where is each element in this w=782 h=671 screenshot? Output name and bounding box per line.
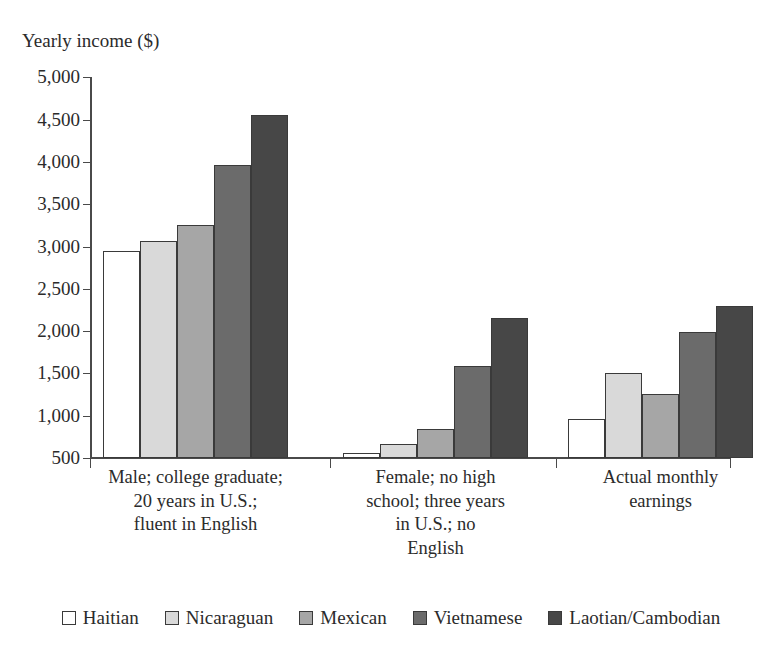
y-tick-label: 1,500 <box>6 363 80 382</box>
y-tick-label: 4,000 <box>6 152 80 171</box>
y-tick-label: 3,000 <box>6 237 80 256</box>
y-axis-line <box>90 77 92 459</box>
legend-item: Haitian <box>62 607 139 629</box>
bar <box>177 225 214 458</box>
y-tick-label: 1,000 <box>6 406 80 425</box>
bar <box>642 394 679 458</box>
category-label-line: school; three years <box>311 490 561 514</box>
legend: HaitianNicaraguanMexicanVietnameseLaotia… <box>0 607 782 629</box>
y-axis-tick-labels: 5,0004,5004,0003,5003,0002,5002,0001,500… <box>0 0 80 671</box>
legend-swatch-icon <box>548 611 562 625</box>
bar <box>491 318 528 458</box>
bar <box>454 366 491 458</box>
legend-label: Vietnamese <box>434 607 523 629</box>
category-label-line: Male; college graduate; <box>71 466 321 490</box>
bar <box>716 306 753 458</box>
category-label: Male; college graduate;20 years in U.S.;… <box>71 466 321 537</box>
legend-label: Mexican <box>320 607 386 629</box>
legend-swatch-icon <box>299 611 313 625</box>
category-label-line: fluent in English <box>71 513 321 537</box>
y-tick-label: 2,000 <box>6 321 80 340</box>
bar <box>679 332 716 458</box>
y-tick-label: 500 <box>6 448 80 467</box>
bar <box>605 373 642 458</box>
bar <box>140 241 177 458</box>
y-tick-label: 5,000 <box>6 67 80 86</box>
legend-swatch-icon <box>413 611 427 625</box>
legend-label: Haitian <box>83 607 139 629</box>
category-label: Actual monthlyearnings <box>536 466 782 513</box>
category-label-line: Actual monthly <box>536 466 782 490</box>
legend-label: Laotian/Cambodian <box>569 607 720 629</box>
legend-item: Laotian/Cambodian <box>548 607 720 629</box>
category-label-line: Female; no high <box>311 466 561 490</box>
bar <box>343 453 380 458</box>
legend-swatch-icon <box>165 611 179 625</box>
bar <box>214 165 251 458</box>
bar <box>251 115 288 458</box>
legend-item: Nicaraguan <box>165 607 274 629</box>
y-tick-label: 4,500 <box>6 110 80 129</box>
bar <box>568 419 605 458</box>
category-label-line: English <box>311 537 561 561</box>
legend-label: Nicaraguan <box>186 607 274 629</box>
bar <box>103 251 140 458</box>
category-label: Female; no highschool; three yearsin U.S… <box>311 466 561 561</box>
bar <box>417 429 454 458</box>
category-label-line: earnings <box>536 490 782 514</box>
y-tick-label: 2,500 <box>6 279 80 298</box>
legend-item: Vietnamese <box>413 607 523 629</box>
legend-swatch-icon <box>62 611 76 625</box>
bar-chart: Yearly income ($) 5,0004,5004,0003,5003,… <box>0 0 782 671</box>
legend-item: Mexican <box>299 607 386 629</box>
y-tick-label: 3,500 <box>6 194 80 213</box>
bar <box>380 444 417 458</box>
category-label-line: in U.S.; no <box>311 513 561 537</box>
category-label-line: 20 years in U.S.; <box>71 490 321 514</box>
